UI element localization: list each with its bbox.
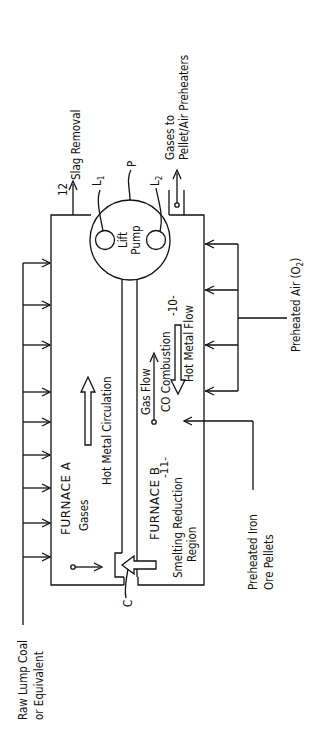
air-label: Preheated Air (O2) — [289, 258, 305, 352]
co-combustion-label: CO Combustion — [159, 331, 173, 412]
furnace-b: FURNACE B -11- Smelting Reduction Region — [148, 457, 199, 578]
gas-out-line1: Gases to — [163, 115, 177, 160]
gas-out-line2: Pellet/Air Preheaters — [177, 55, 191, 160]
coal-line1: Raw Lump Coal — [16, 640, 30, 720]
slag-removal: 12 Slag Removal — [56, 110, 83, 215]
channel-ref: C — [121, 600, 135, 607]
iron-ore-line2: Ore Pellets — [262, 534, 276, 590]
gases-label: Gases — [77, 499, 91, 531]
l1-ref: L1 — [90, 176, 106, 186]
coal-line2: or Equivalent — [32, 651, 46, 720]
furnace-a-label: FURNACE A — [59, 461, 73, 535]
smelting-label: Smelting Reduction — [171, 477, 185, 578]
region-label: Region — [185, 527, 199, 562]
iron-ore-line1: Preheated Iron — [246, 514, 260, 590]
lift-pump: Lift Pump L1 P L2 — [90, 161, 170, 280]
furnace-process-diagram: Lift Pump L1 P L2 C 12 Slag Removal Gase… — [0, 0, 313, 750]
coal-manifold: Raw Lump Coal or Equivalent — [16, 259, 50, 720]
p-ref: P — [125, 161, 139, 167]
lift-label: Lift — [116, 232, 130, 248]
circulation-channel: C — [115, 280, 156, 607]
hot-metal-circulation: Hot Metal Circulation — [81, 376, 114, 485]
l2-ref: L2 — [148, 176, 164, 186]
circulation-arrow — [81, 377, 95, 445]
gas-flow: Gas Flow CO Combustion — [139, 331, 173, 424]
circulation-label: Hot Metal Circulation — [100, 376, 114, 485]
gas-flow-label: Gas Flow — [139, 368, 153, 415]
furnace-a: FURNACE A Gases — [59, 461, 102, 571]
furnace-b-ref: -11- — [158, 457, 170, 478]
slag-label: Slag Removal — [69, 110, 83, 180]
c-leader — [125, 569, 128, 598]
hot-metal-flow-ref: -10- — [166, 295, 180, 316]
hot-metal-flow-label: Hot Metal Flow — [182, 305, 196, 382]
iron-ore-feed: Preheated Iron Ore Pellets — [184, 417, 276, 590]
p-leader — [128, 170, 131, 200]
gas-outlet: Gases to Pellet/Air Preheaters — [163, 55, 191, 215]
air-manifold: Preheated Air (O2) — [205, 240, 305, 395]
coal-feed-arrows — [23, 259, 50, 561]
slag-ref: 12 — [56, 183, 70, 196]
pump-label: Pump — [129, 225, 143, 254]
